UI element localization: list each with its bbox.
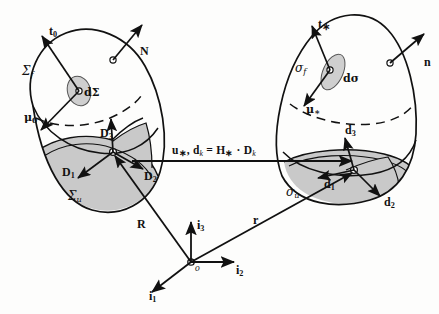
label-origin: o [195, 264, 200, 274]
vector-arrow-t0 [42, 36, 79, 91]
label-n: n [424, 56, 431, 68]
label-sigma-f-deformed: σf [295, 62, 306, 75]
vector-arrow-mu0 [41, 91, 79, 130]
label-d3: d3 [345, 124, 356, 138]
label-t0: t0 [49, 25, 57, 39]
label-mu0: μ0 [24, 112, 37, 124]
label-d1: d1 [324, 178, 335, 192]
label-D3: D3 [100, 127, 113, 141]
label-i2: i2 [236, 264, 243, 278]
label-N: N [140, 45, 149, 57]
label-sigma-u-deformed: σu [286, 186, 299, 199]
label-d-sigma-reference: dΣ [84, 87, 99, 98]
label-i3: i3 [197, 219, 204, 233]
label-t-star: t∗ [318, 18, 330, 31]
label-R: R [137, 218, 146, 230]
label-r: r [253, 214, 258, 226]
label-i1: i1 [149, 290, 156, 304]
vector-arrow-t-star [312, 26, 330, 70]
figure-canvas: t0 N Σf dΣ μ0 D3 D1 D2 Σu t∗ n σf dσ μ∗ … [0, 0, 439, 314]
label-D1: D1 [62, 166, 75, 180]
deformed-body-group [277, 15, 424, 205]
label-d-sigma-deformed: dσ [343, 73, 359, 84]
label-d2: d2 [384, 196, 395, 210]
label-sigma-u-reference: Σu [68, 190, 82, 203]
axis-arrow-i1 [152, 262, 191, 292]
label-sigma-f-reference: Σf [22, 65, 34, 78]
label-D2: D2 [144, 170, 157, 184]
mapping-equation-label: u∗, dk = H∗ · Dk [172, 145, 256, 158]
label-mu-star: μ∗ [306, 104, 320, 116]
